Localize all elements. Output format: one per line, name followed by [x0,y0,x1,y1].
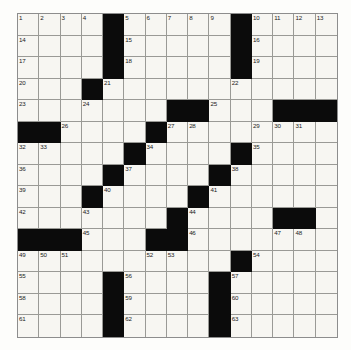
crossword-cell[interactable]: 3 [61,14,82,36]
crossword-cell[interactable] [273,36,294,58]
crossword-cell[interactable]: 47 [273,229,294,251]
crossword-cell[interactable] [294,165,315,187]
crossword-cell[interactable]: 50 [39,251,60,273]
crossword-cell[interactable]: 51 [61,251,82,273]
crossword-cell[interactable]: 49 [18,251,39,273]
crossword-cell[interactable] [316,122,337,144]
crossword-cell[interactable]: 1 [18,14,39,36]
crossword-cell[interactable] [294,79,315,101]
crossword-cell[interactable] [294,143,315,165]
crossword-cell[interactable] [316,251,337,273]
crossword-cell[interactable] [316,165,337,187]
crossword-cell[interactable]: 35 [252,143,273,165]
crossword-cell[interactable] [252,272,273,294]
crossword-cell[interactable]: 46 [188,229,209,251]
crossword-cell[interactable] [146,315,167,337]
crossword-cell[interactable]: 32 [18,143,39,165]
crossword-cell[interactable] [231,100,252,122]
crossword-cell[interactable] [252,229,273,251]
crossword-cell[interactable] [252,186,273,208]
crossword-cell[interactable]: 39 [18,186,39,208]
crossword-cell[interactable] [124,229,145,251]
crossword-cell[interactable]: 25 [209,100,230,122]
crossword-cell[interactable] [273,186,294,208]
crossword-cell[interactable]: 36 [18,165,39,187]
crossword-cell[interactable] [231,186,252,208]
crossword-cell[interactable] [103,122,124,144]
crossword-cell[interactable]: 17 [18,57,39,79]
crossword-cell[interactable] [252,208,273,230]
crossword-cell[interactable]: 19 [252,57,273,79]
crossword-cell[interactable] [146,79,167,101]
crossword-cell[interactable] [188,36,209,58]
crossword-cell[interactable] [82,251,103,273]
crossword-grid[interactable]: 1234567891011121314151617181920212223242… [17,13,338,338]
crossword-cell[interactable] [316,79,337,101]
crossword-cell[interactable]: 13 [316,14,337,36]
crossword-cell[interactable]: 54 [252,251,273,273]
crossword-cell[interactable]: 61 [18,315,39,337]
crossword-cell[interactable] [167,165,188,187]
crossword-cell[interactable]: 38 [231,165,252,187]
crossword-cell[interactable]: 31 [294,122,315,144]
crossword-cell[interactable] [273,251,294,273]
crossword-cell[interactable] [209,229,230,251]
crossword-cell[interactable]: 29 [252,122,273,144]
crossword-cell[interactable]: 12 [294,14,315,36]
crossword-cell[interactable]: 18 [124,57,145,79]
crossword-cell[interactable]: 34 [146,143,167,165]
crossword-cell[interactable] [146,186,167,208]
crossword-cell[interactable]: 10 [252,14,273,36]
crossword-cell[interactable] [273,272,294,294]
crossword-cell[interactable] [316,315,337,337]
crossword-cell[interactable] [39,294,60,316]
crossword-cell[interactable] [294,36,315,58]
crossword-cell[interactable] [61,79,82,101]
crossword-cell[interactable]: 33 [39,143,60,165]
crossword-cell[interactable] [146,36,167,58]
crossword-cell[interactable]: 60 [231,294,252,316]
crossword-cell[interactable] [167,294,188,316]
crossword-cell[interactable] [188,251,209,273]
crossword-cell[interactable] [188,57,209,79]
crossword-cell[interactable]: 62 [124,315,145,337]
crossword-cell[interactable] [61,208,82,230]
crossword-cell[interactable] [167,79,188,101]
crossword-cell[interactable]: 59 [124,294,145,316]
crossword-cell[interactable] [167,272,188,294]
crossword-cell[interactable] [231,122,252,144]
crossword-cell[interactable] [167,57,188,79]
crossword-cell[interactable]: 30 [273,122,294,144]
crossword-cell[interactable] [61,143,82,165]
crossword-cell[interactable] [82,143,103,165]
crossword-cell[interactable] [82,294,103,316]
crossword-cell[interactable] [82,36,103,58]
crossword-cell[interactable]: 58 [18,294,39,316]
crossword-cell[interactable] [316,57,337,79]
crossword-cell[interactable] [188,143,209,165]
crossword-cell[interactable] [61,165,82,187]
crossword-cell[interactable] [188,315,209,337]
crossword-cell[interactable] [316,208,337,230]
crossword-cell[interactable] [39,186,60,208]
crossword-cell[interactable] [252,100,273,122]
crossword-cell[interactable] [61,272,82,294]
crossword-cell[interactable]: 40 [103,186,124,208]
crossword-cell[interactable]: 42 [18,208,39,230]
crossword-cell[interactable] [273,57,294,79]
crossword-cell[interactable] [39,208,60,230]
crossword-cell[interactable] [252,165,273,187]
crossword-cell[interactable] [231,208,252,230]
crossword-cell[interactable] [209,251,230,273]
crossword-cell[interactable] [103,251,124,273]
crossword-cell[interactable] [167,186,188,208]
crossword-cell[interactable]: 41 [209,186,230,208]
crossword-cell[interactable]: 57 [231,272,252,294]
crossword-cell[interactable] [146,272,167,294]
crossword-cell[interactable] [39,315,60,337]
crossword-cell[interactable] [61,57,82,79]
crossword-cell[interactable] [82,57,103,79]
crossword-cell[interactable] [209,79,230,101]
crossword-cell[interactable] [146,208,167,230]
crossword-cell[interactable]: 52 [146,251,167,273]
